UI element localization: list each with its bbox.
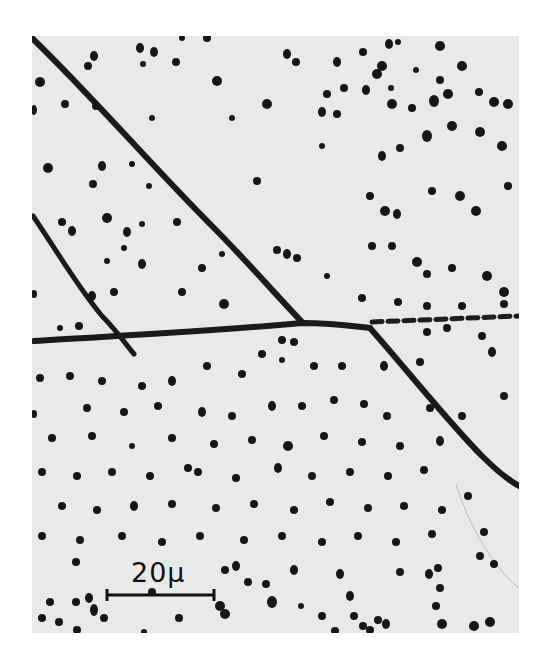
grain-boundary-horizontal <box>34 323 370 341</box>
pits-along-right-edge <box>372 316 519 322</box>
grain-boundary-lower-right <box>370 328 519 486</box>
grain-boundaries <box>32 38 519 588</box>
faint-arc <box>456 484 519 588</box>
micrograph-canvas <box>32 36 519 633</box>
scale-bar <box>107 589 214 601</box>
scale-bar-label: 20μ <box>131 559 186 586</box>
micrograph <box>32 36 519 633</box>
